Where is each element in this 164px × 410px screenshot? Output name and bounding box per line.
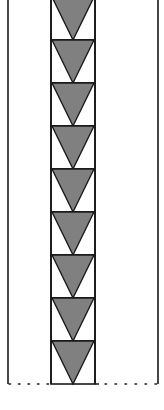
triangle-strip	[51, 0, 95, 384]
triangle-strip-diagram	[0, 0, 164, 410]
